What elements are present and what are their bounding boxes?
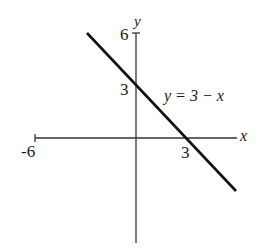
x-intercept-label: 3	[181, 143, 190, 162]
y-axis-label: y	[132, 13, 141, 29]
x-axis-label: x	[239, 127, 247, 144]
equation-label: y = 3 − x	[162, 87, 224, 105]
y-tick-label-6: 6	[120, 25, 129, 44]
graph-line	[87, 33, 236, 191]
x-tick-label-neg6: -6	[21, 142, 35, 161]
graph: y 6 3 y = 3 − x x -6 3	[0, 0, 263, 251]
y-intercept-label: 3	[120, 80, 129, 99]
